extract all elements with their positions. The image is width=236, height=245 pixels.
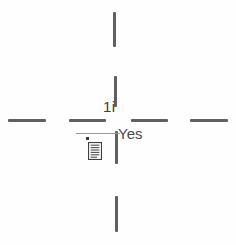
diagram-canvas: 1i Yes — [0, 0, 236, 245]
dash-segment-right-outer — [190, 119, 228, 122]
dash-segment-left-outer — [8, 119, 46, 122]
dash-segment-right-inner — [131, 119, 168, 122]
answer-label: Yes — [118, 126, 142, 141]
dash-segment-left-inner — [69, 119, 106, 122]
document-list-icon — [88, 142, 102, 160]
center-label: 1i — [103, 99, 116, 114]
marker-dot-icon — [86, 137, 89, 140]
dash-segment-bottom-outer — [115, 196, 118, 232]
dash-segment-top-outer — [113, 12, 116, 47]
leader-line — [76, 133, 120, 134]
